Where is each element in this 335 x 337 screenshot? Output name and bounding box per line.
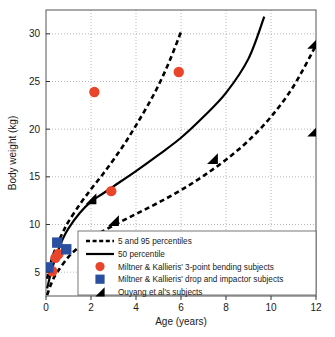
x-tick-label: 10 — [265, 302, 277, 313]
legend-item-label: 50 percentile — [118, 250, 165, 259]
legend-item-label: 5 and 95 percentiles — [118, 237, 192, 246]
y-tick-label: 10 — [29, 219, 41, 230]
marker-square — [43, 262, 53, 272]
x-tick-label: 12 — [310, 302, 322, 313]
marker-circle — [106, 186, 116, 196]
marker-circle — [174, 67, 184, 77]
legend-circle-icon — [95, 262, 104, 271]
x-tick-label: 6 — [178, 302, 184, 313]
chart-container: 02468101251015202530 Age (years) Body we… — [0, 0, 335, 337]
y-tick-label: 15 — [29, 171, 41, 182]
body-weight-vs-age-chart: 02468101251015202530 Age (years) Body we… — [0, 0, 335, 337]
y-axis-label: Body weight (kg) — [7, 116, 18, 190]
legend-item: Miltner & Kallieris' 3-point bending sub… — [95, 262, 273, 272]
legend-square-icon — [95, 275, 104, 284]
x-tick-label: 4 — [133, 302, 139, 313]
marker-square — [61, 244, 71, 254]
y-tick-label: 5 — [34, 267, 40, 278]
x-tick-label: 8 — [223, 302, 229, 313]
y-tick-label: 20 — [29, 124, 41, 135]
y-tick-label: 30 — [29, 28, 41, 39]
legend-item-label: Miltner & Kallieris' drop and impactor s… — [118, 275, 283, 284]
marker-circle — [89, 87, 99, 97]
y-tick-label: 25 — [29, 76, 41, 87]
chart-legend: 5 and 95 percentiles50 percentileMiltner… — [78, 231, 316, 297]
legend-item-label: Ouyang et al's subjects — [118, 288, 202, 297]
x-axis-label: Age (years) — [155, 316, 207, 327]
x-tick-label: 2 — [88, 302, 94, 313]
legend-item: Miltner & Kallieris' drop and impactor s… — [95, 275, 283, 285]
legend-item-label: Miltner & Kallieris' 3-point bending sub… — [118, 263, 274, 272]
marker-square — [52, 237, 62, 247]
x-tick-label: 0 — [43, 302, 49, 313]
